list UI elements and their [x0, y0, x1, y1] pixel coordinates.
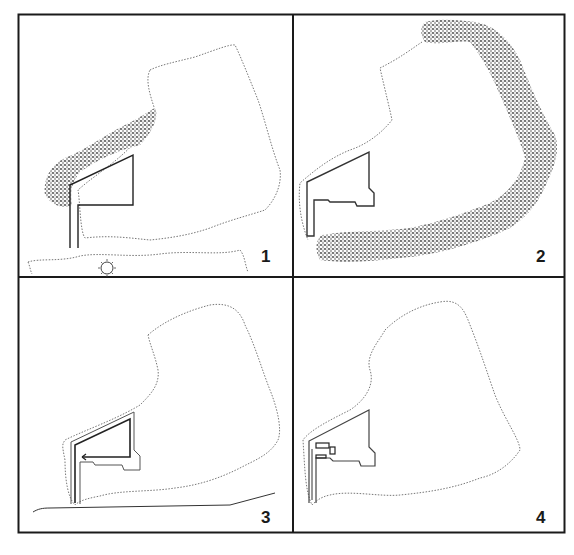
site-boundary — [63, 304, 280, 505]
vegetation-band — [45, 108, 157, 207]
site-boundary — [303, 301, 520, 505]
structure-2 — [330, 447, 335, 454]
road — [28, 250, 248, 272]
sun-icon — [98, 259, 116, 277]
panel-2 — [299, 20, 557, 262]
panel-3 — [33, 304, 280, 512]
site-boundary — [299, 42, 422, 240]
panel-2-number: 2 — [536, 247, 545, 267]
panel-1 — [28, 45, 280, 277]
site-plan-drawing — [0, 0, 574, 555]
building-inner — [75, 419, 130, 503]
site-plan-figure: 1 2 3 4 — [0, 0, 574, 555]
panel-1-number: 1 — [261, 247, 270, 267]
panel-3-number: 3 — [261, 508, 270, 528]
panel-4-number: 4 — [536, 508, 545, 528]
building — [307, 152, 374, 236]
vegetation-band — [316, 20, 557, 262]
structure-1 — [316, 443, 329, 448]
panel-4 — [303, 301, 520, 505]
building — [309, 410, 375, 503]
structure-3 — [316, 455, 326, 458]
grid-frame — [18, 14, 565, 533]
